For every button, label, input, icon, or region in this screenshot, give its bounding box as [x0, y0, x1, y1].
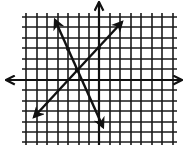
point-marker: [66, 47, 70, 51]
point-marker: [97, 46, 101, 50]
coordinate-plane: [0, 0, 184, 145]
intersection-point: [75, 68, 79, 72]
coordinate-plane-figure: [0, 0, 184, 145]
axes: [6, 2, 182, 145]
